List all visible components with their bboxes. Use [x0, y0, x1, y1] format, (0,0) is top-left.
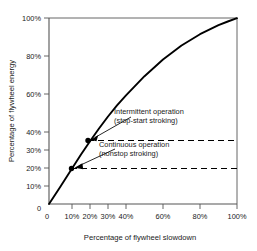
x-tick-label-20: 20%: [83, 212, 98, 221]
annotation-continuous-line1: Continuous operation: [99, 140, 169, 149]
y-tick-label-0: 0: [37, 204, 41, 213]
marker-continuous-operation: [69, 166, 74, 171]
x-axis-tick-labels: 0 10% 20% 30% 40% 60% 80% 100%: [45, 212, 247, 221]
x-axis-ticks: [72, 204, 237, 209]
y-tick-label-30: 30%: [26, 146, 41, 155]
x-tick-label-80: 80%: [193, 212, 208, 221]
annotation-intermittent-line2: (stop-start stroking): [114, 116, 178, 125]
chart-svg: 100% 80% 60% 40% 30% 20% 10% 0 0 10% 20%…: [0, 0, 257, 251]
annotation-continuous-line2: (nonstop stroking): [99, 149, 158, 158]
x-tick-label-100: 100%: [228, 212, 247, 221]
y-tick-label-20: 20%: [26, 164, 41, 173]
y-tick-label-60: 60%: [26, 90, 41, 99]
y-axis-tick-labels: 100% 80% 60% 40% 30% 20% 10% 0: [22, 14, 41, 213]
annotation-intermittent: Intermittent operation (stop-start strok…: [114, 107, 184, 125]
annotation-continuous: Continuous operation (nonstop stroking): [99, 140, 169, 158]
x-tick-label-30: 30%: [101, 212, 116, 221]
y-tick-label-100: 100%: [22, 14, 41, 23]
y-tick-label-80: 80%: [26, 52, 41, 61]
x-tick-label-40: 40%: [119, 212, 134, 221]
marker-intermittent-operation: [85, 138, 90, 143]
annotation-intermittent-line1: Intermittent operation: [114, 107, 184, 116]
flywheel-energy-chart: 100% 80% 60% 40% 30% 20% 10% 0 0 10% 20%…: [0, 0, 257, 251]
y-tick-label-10: 10%: [26, 182, 41, 191]
x-tick-label-60: 60%: [156, 212, 171, 221]
y-axis-ticks: [44, 18, 49, 186]
x-axis-title: Percentage of flywheel slowdown: [84, 233, 196, 242]
y-axis-title: Percentage of flywheel energy: [7, 60, 16, 162]
x-tick-label-10: 10%: [65, 212, 80, 221]
x-tick-label-0: 0: [45, 212, 49, 221]
y-tick-label-40: 40%: [26, 128, 41, 137]
